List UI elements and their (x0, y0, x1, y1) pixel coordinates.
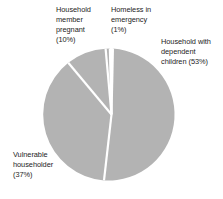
pie-label-member-pregnant: Household member pregnant (10%) (56, 5, 108, 45)
pie-label-dependent-children: Household with dependent children (53%) (161, 37, 221, 67)
pie-chart: Household member pregnant (10%) Homeless… (0, 0, 223, 199)
pie-label-homeless-emergency: Homeless in emergency (1%) (111, 5, 165, 35)
pie-slice-dependent-children[interactable] (104, 49, 175, 181)
pie-label-vulnerable-householder: Vulnerable householder (37%) (13, 150, 79, 180)
